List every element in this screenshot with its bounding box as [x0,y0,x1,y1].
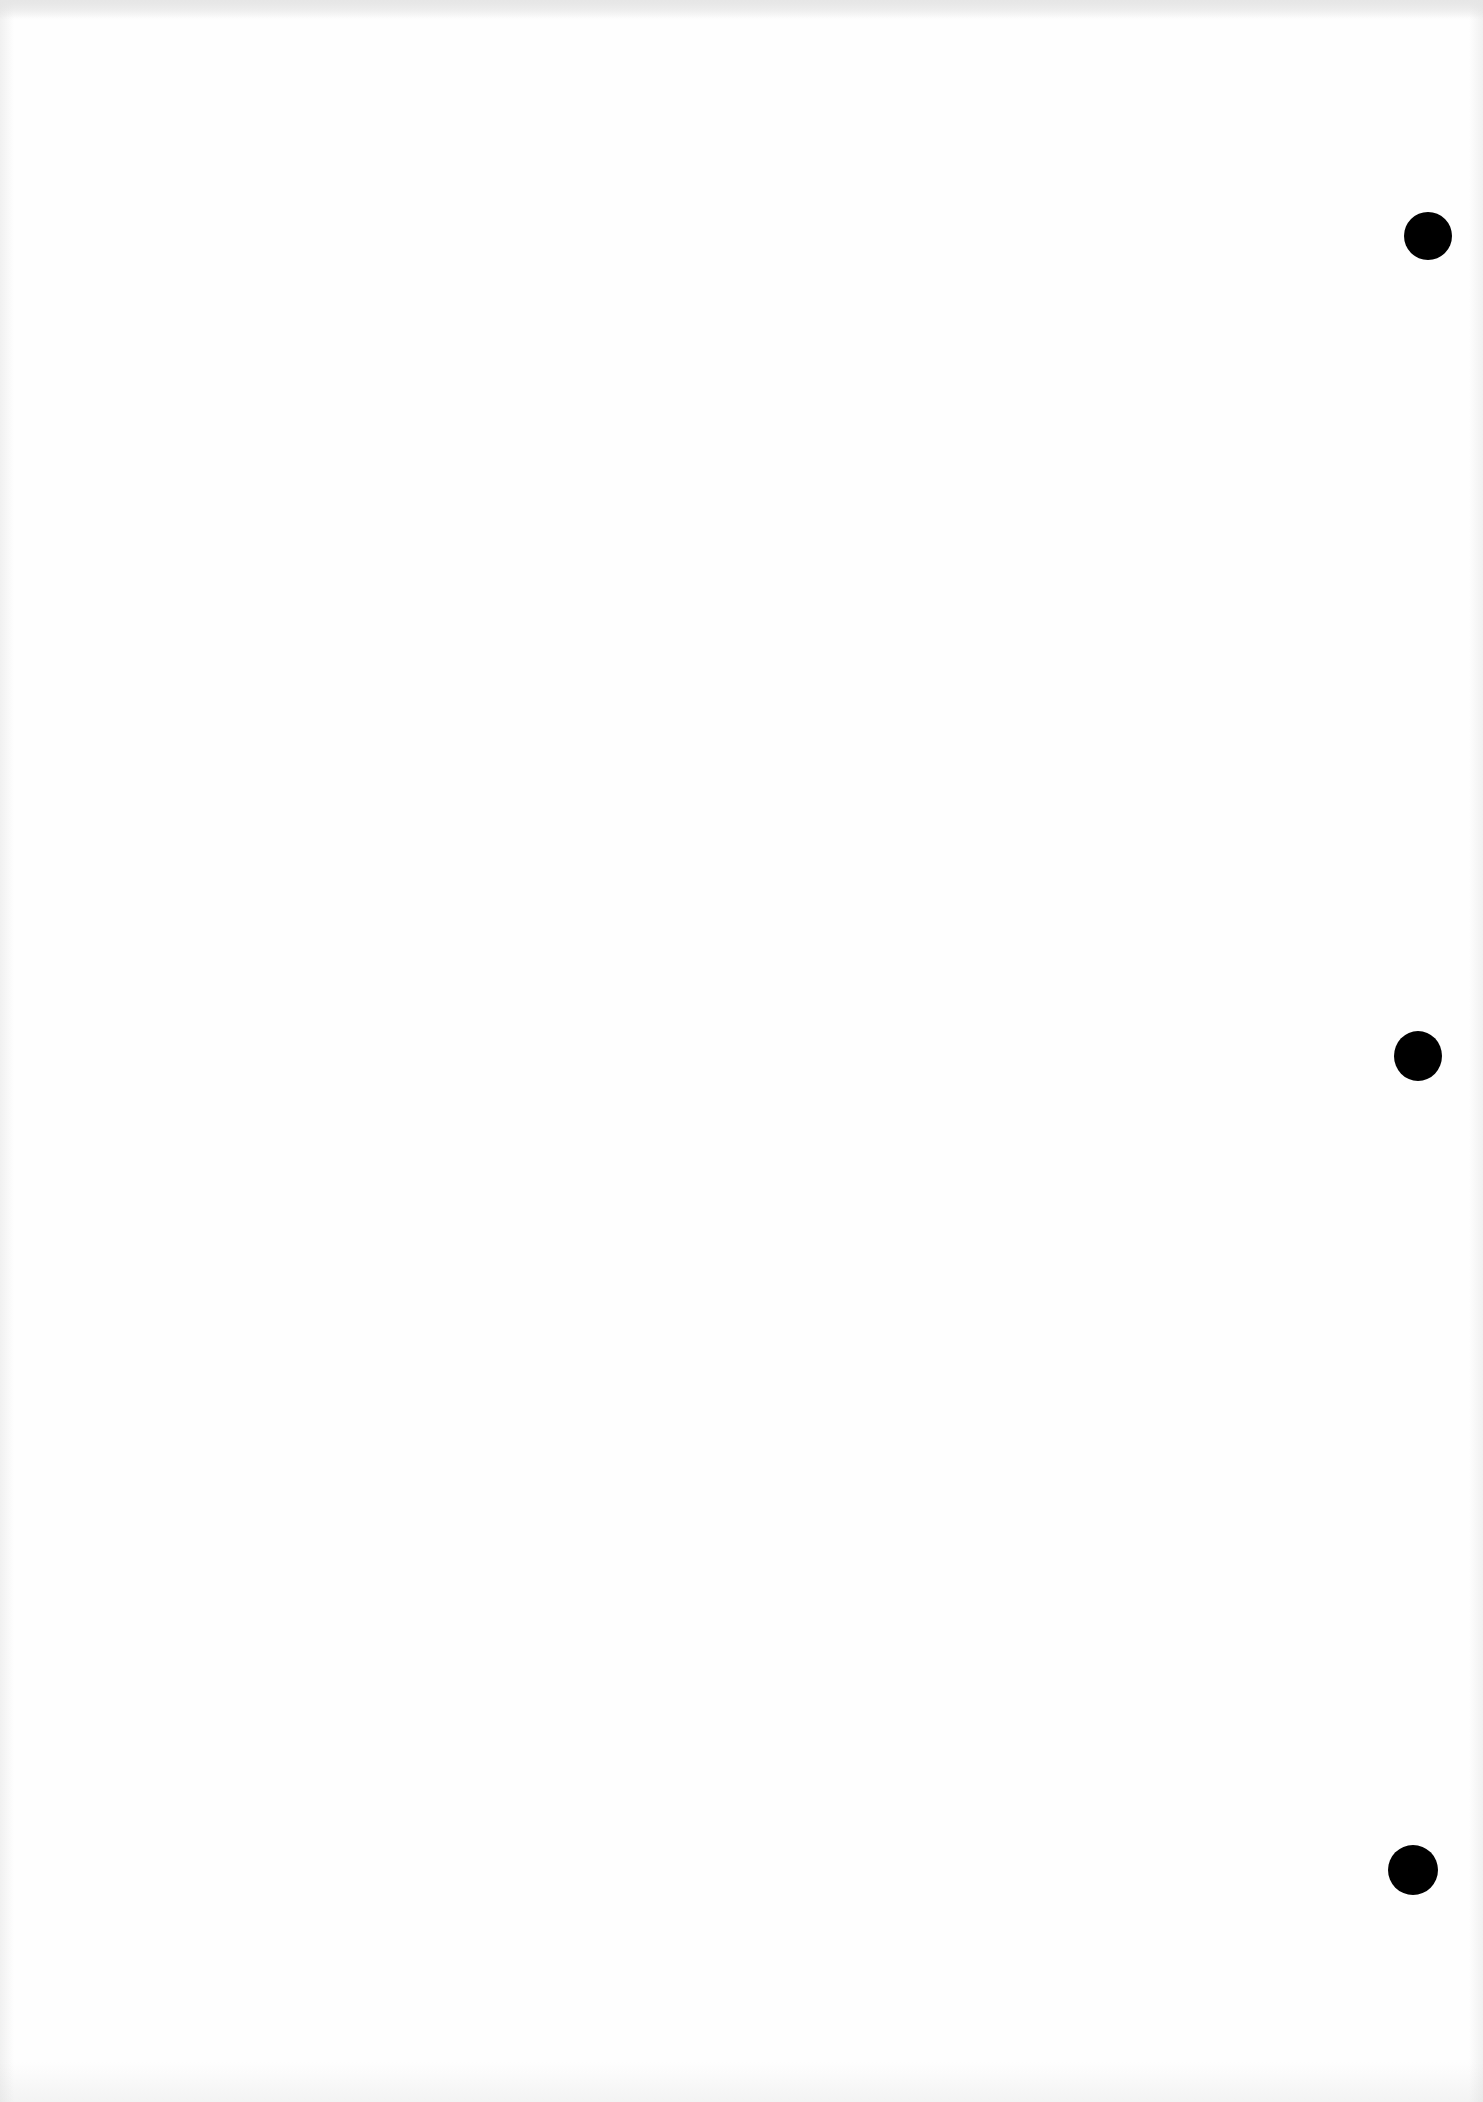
scan-edge-shadow [0,0,1483,18]
punch-hole-top [1404,212,1452,260]
punch-hole-middle [1394,1031,1442,1081]
scanned-page [0,0,1483,2102]
punch-hole-bottom [1388,1845,1438,1895]
